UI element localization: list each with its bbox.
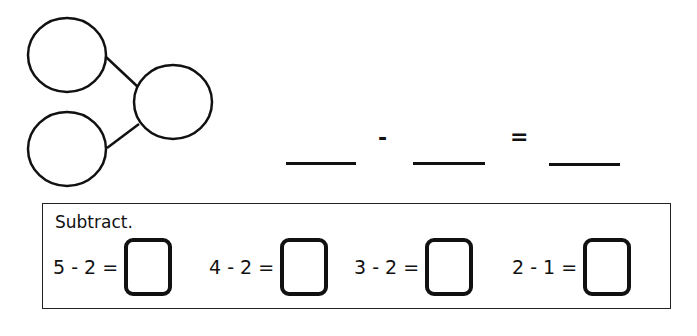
equals-sign: = <box>510 126 528 148</box>
problem-expression: 3 - 2 = <box>354 256 419 278</box>
equation-blank-2[interactable] <box>413 162 485 165</box>
minus-sign: - <box>378 127 387 149</box>
subtraction-exercise-box: Subtract. 5 - 2 = 4 - 2 = 3 - 2 = 2 - 1 … <box>42 203 671 309</box>
whole-circle[interactable] <box>134 65 212 139</box>
part-circle-bottom[interactable] <box>28 112 106 186</box>
problem-expression: 2 - 1 = <box>512 256 577 278</box>
bond-connector-bottom <box>107 124 139 148</box>
instruction-text: Subtract. <box>55 212 133 232</box>
problem-3: 3 - 2 = <box>354 238 473 296</box>
problem-2: 4 - 2 = <box>209 238 328 296</box>
answer-box[interactable] <box>425 238 473 296</box>
equation-blank-3[interactable] <box>549 163 620 166</box>
problem-expression: 5 - 2 = <box>53 256 118 278</box>
bond-connector-top <box>106 57 138 87</box>
problem-4: 2 - 1 = <box>512 238 631 296</box>
answer-box[interactable] <box>583 238 631 296</box>
equation-blank-1[interactable] <box>286 162 356 165</box>
part-circle-top[interactable] <box>28 18 106 92</box>
answer-box[interactable] <box>124 238 172 296</box>
problem-1: 5 - 2 = <box>53 238 172 296</box>
number-bond-diagram <box>0 0 230 200</box>
problem-expression: 4 - 2 = <box>209 256 274 278</box>
answer-box[interactable] <box>280 238 328 296</box>
